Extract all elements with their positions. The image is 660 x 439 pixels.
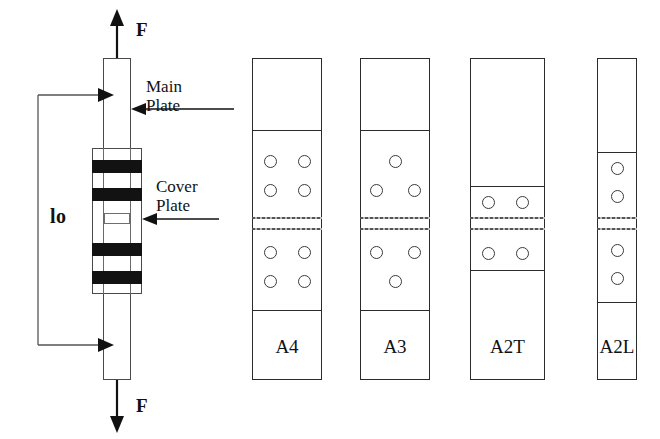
- joint-gap-line-2: [252, 228, 322, 230]
- bolt-hole: [482, 247, 495, 260]
- cover-plate-top-line: [597, 152, 637, 153]
- cover-plate-top-line: [360, 130, 430, 131]
- cover-plate-top-line: [470, 186, 545, 187]
- bolt-hole: [264, 184, 277, 197]
- specimen-a2t: A2T: [470, 0, 545, 439]
- joint-gap-line-1: [252, 217, 322, 219]
- specimen-group: A4A3A2TA2L: [0, 0, 660, 439]
- bolt-hole: [516, 196, 529, 209]
- bolt-hole: [298, 184, 311, 197]
- specimen-label-a4: A4: [240, 336, 334, 357]
- joint-gap-line-1: [360, 217, 430, 219]
- bolt-hole: [389, 155, 402, 168]
- joint-gap-line-1: [597, 217, 637, 219]
- bolt-hole: [611, 244, 624, 257]
- specimen-outline: [252, 58, 322, 380]
- specimen-a4: A4: [252, 0, 322, 439]
- cover-plate-bottom-line: [252, 310, 322, 311]
- joint-gap-line-2: [360, 228, 430, 230]
- bolt-hole: [370, 184, 383, 197]
- bolt-hole: [264, 275, 277, 288]
- cover-plate-bottom-line: [360, 310, 430, 311]
- bolt-hole: [408, 184, 421, 197]
- bolt-hole: [298, 155, 311, 168]
- bolt-hole: [611, 162, 624, 175]
- specimen-label-a2l: A2L: [585, 336, 649, 357]
- specimen-a3: A3: [360, 0, 430, 439]
- bolt-hole: [408, 246, 421, 259]
- bolt-hole: [264, 246, 277, 259]
- bolt-hole: [611, 272, 624, 285]
- cover-plate-bottom-line: [597, 302, 637, 303]
- cover-plate-top-line: [252, 130, 322, 131]
- joint-gap-line-1: [470, 217, 545, 219]
- specimen-a2l: A2L: [597, 0, 637, 439]
- joint-gap-line-2: [597, 228, 637, 230]
- specimen-label-a2t: A2T: [458, 336, 557, 357]
- specimen-outline: [597, 58, 637, 380]
- bolt-hole: [370, 246, 383, 259]
- bolt-hole: [611, 190, 624, 203]
- bolt-hole: [482, 196, 495, 209]
- figure-canvas: F Main Plate Cover Plate: [0, 0, 660, 439]
- specimen-label-a3: A3: [348, 336, 442, 357]
- bolt-hole: [264, 155, 277, 168]
- bolt-hole: [516, 247, 529, 260]
- specimen-outline: [470, 58, 545, 380]
- joint-gap-line-2: [470, 228, 545, 230]
- bolt-hole: [389, 275, 402, 288]
- cover-plate-bottom-line: [470, 270, 545, 271]
- specimen-outline: [360, 58, 430, 380]
- bolt-hole: [298, 275, 311, 288]
- bolt-hole: [298, 246, 311, 259]
